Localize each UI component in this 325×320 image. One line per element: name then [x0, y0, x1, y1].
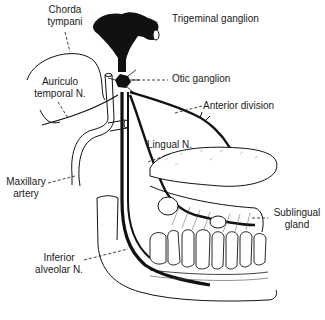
- label-auriculotemporal: Auriculo temporal N.: [32, 76, 88, 100]
- label-trigeminal-ganglion: Trigeminal ganglion: [172, 13, 259, 25]
- trigeminal-ganglion-shape: [93, 12, 158, 72]
- label-anterior-division: Anterior division: [203, 100, 274, 112]
- leader-auriculo: [58, 102, 68, 118]
- label-maxillary-artery: Maxillary artery: [2, 176, 50, 200]
- tongue-shape: [150, 147, 277, 186]
- teeth: [150, 230, 266, 269]
- label-chorda-tympani: Chorda tympani: [40, 4, 90, 28]
- label-inferior-alveolar: Inferior alveolar N.: [30, 252, 88, 276]
- leader-chorda: [65, 32, 70, 52]
- otic-ganglion-shape: [115, 74, 131, 88]
- leader-inferior: [84, 249, 128, 260]
- label-lingual-nerve: Lingual N.: [147, 139, 192, 151]
- label-sublingual-gland: Sublingual gland: [270, 207, 324, 231]
- label-otic-ganglion: Otic ganglion: [172, 73, 230, 85]
- leader-maxillary: [48, 176, 75, 183]
